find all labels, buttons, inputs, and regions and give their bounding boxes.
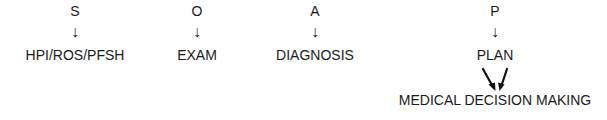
label-plan: PLAN (415, 47, 575, 63)
letter-a: A (235, 3, 395, 19)
converging-arrows-icon (481, 67, 515, 93)
label-diagnosis: DIAGNOSIS (235, 47, 395, 63)
letter-p: P (415, 3, 575, 19)
down-arrow-icon: ↓ (235, 23, 395, 41)
label-medical-decision-making: MEDICAL DECISION MAKING (395, 92, 595, 108)
down-arrow-icon: ↓ (415, 23, 575, 41)
